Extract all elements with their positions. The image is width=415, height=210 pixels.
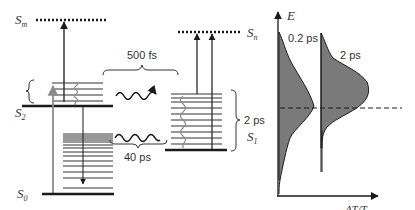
label-40ps: 40 ps — [124, 151, 151, 163]
left-level-system: Sm S2 — [15, 12, 114, 203]
y-axis-label: E — [286, 8, 295, 23]
s0-label: S0 — [17, 186, 28, 203]
label-500fs: 500 fs — [127, 49, 157, 61]
x-axis-label: ΔT/T — [344, 203, 368, 210]
right-level-system: Sn S1 2 ps — [165, 25, 265, 151]
transient-spectra: E ΔT/T 0.2 ps 2 ps — [277, 8, 402, 210]
s2-brace — [26, 80, 34, 103]
sm-label: Sm — [15, 12, 28, 29]
energy-transfer: 500 fs 40 ps — [103, 49, 178, 163]
sn-label: Sn — [247, 25, 258, 42]
brace-500fs — [103, 65, 178, 75]
brace-2ps — [231, 90, 240, 151]
s2-label: S2 — [15, 105, 26, 122]
label-2ps: 2 ps — [244, 114, 265, 126]
wavy-line-40ps — [115, 135, 160, 142]
s1-vibrational-levels — [171, 94, 222, 144]
s2-relaxation-wiggle — [75, 82, 78, 105]
curve-label-2ps: 2 ps — [340, 49, 361, 61]
s0-vibrational-levels — [63, 134, 113, 188]
curve-label-0.2ps: 0.2 ps — [288, 32, 318, 44]
energy-level-diagram: Sm S2 — [0, 0, 415, 210]
spectrum-0.2ps-fill — [279, 32, 314, 180]
wavy-arrow-500fs — [116, 92, 156, 100]
s1-relaxation-wiggle — [181, 96, 186, 148]
s1-label: S1 — [247, 129, 258, 146]
